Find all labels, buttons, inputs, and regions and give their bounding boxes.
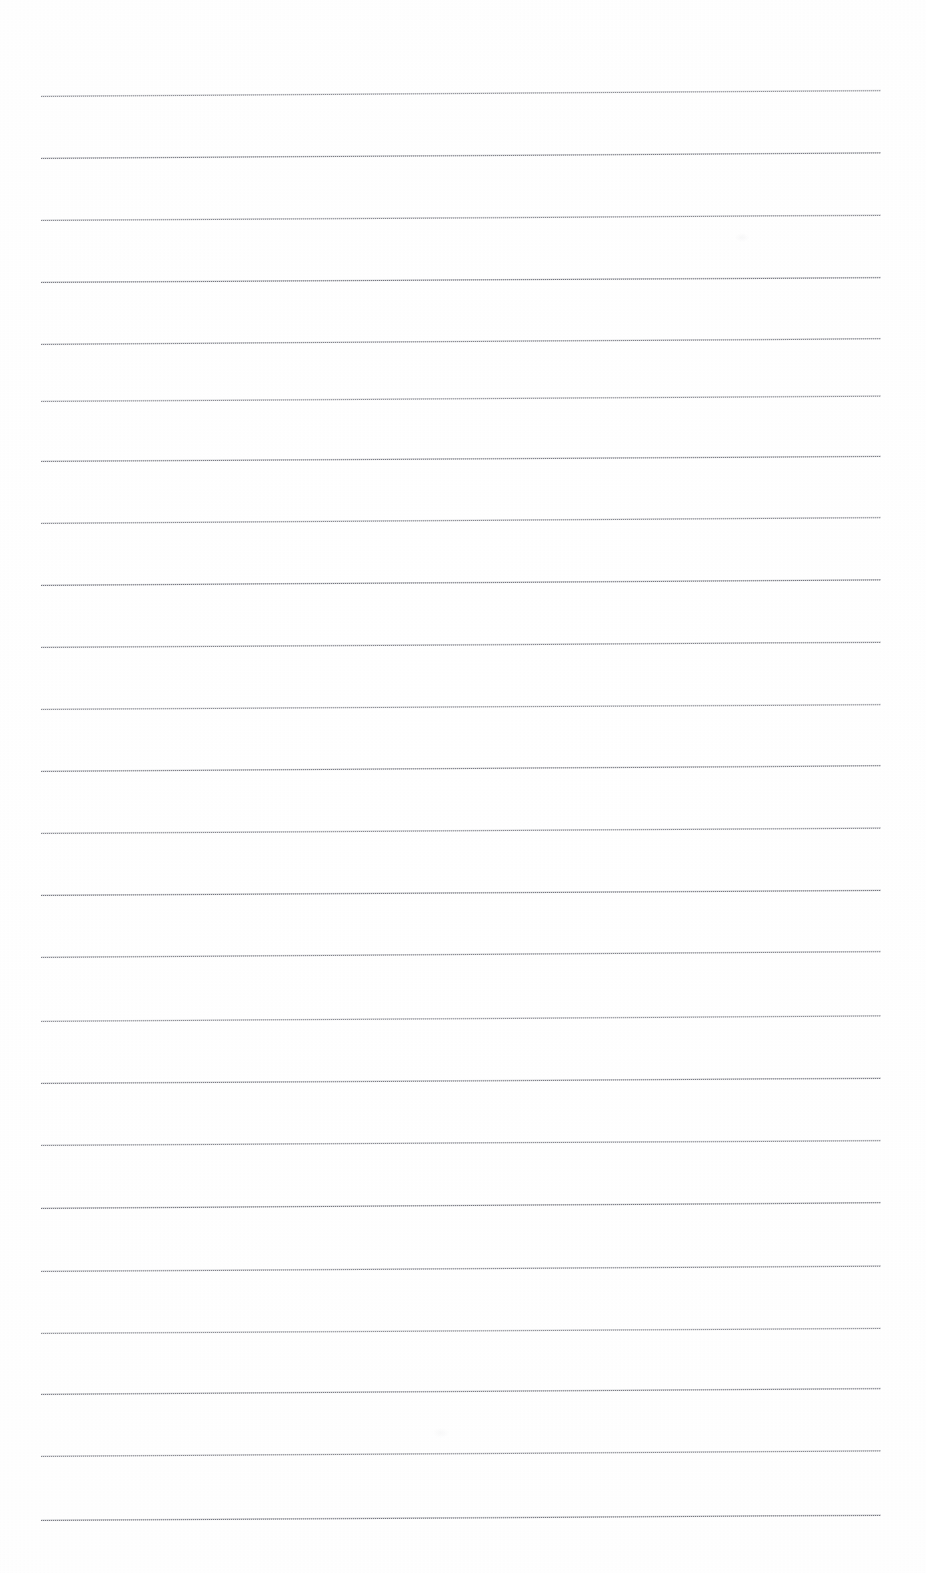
- scanned-page: [0, 0, 926, 1573]
- paper-background: [0, 0, 926, 1573]
